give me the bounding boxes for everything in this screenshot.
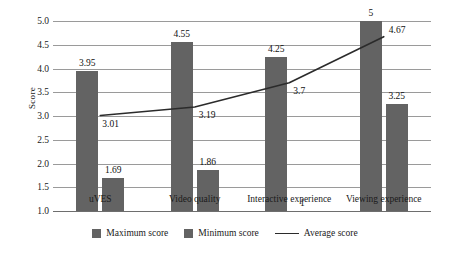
legend-label-minimum-score: Minimum score: [198, 228, 258, 238]
x-axis-category-label: Interactive experience: [247, 194, 331, 204]
bar-value-label: 3.25: [388, 91, 405, 101]
y-axis-tick-label: 5.0: [37, 16, 49, 26]
gridline: 1.0: [53, 211, 431, 212]
legend-item-minimum-score[interactable]: Minimum score: [184, 228, 258, 238]
x-axis-category-label: Video quality: [169, 194, 220, 204]
y-axis-tick-label: 4.0: [37, 64, 49, 74]
x-axis-category-label: Viewing experience: [346, 194, 422, 204]
chart-container: Score 5.04.54.03.53.02.52.01.51.0 3.951.…: [0, 0, 450, 262]
y-axis-tick-label: 1.5: [37, 182, 49, 192]
square-swatch-icon: [184, 229, 193, 238]
y-axis-tick-label: 2.0: [37, 159, 49, 169]
average-value-label: 4.67: [389, 25, 406, 35]
average-value-label: 3.7: [293, 86, 305, 96]
chart-legend: Maximum score Minimum score Average scor…: [0, 228, 450, 238]
bar-value-label: 5: [368, 8, 373, 18]
bar-value-label: 3.95: [79, 58, 96, 68]
average-value-label: 3.01: [102, 119, 119, 129]
bar-value-label: 1.86: [199, 157, 216, 167]
average-value-label: 3.19: [199, 110, 216, 120]
legend-item-maximum-score[interactable]: Maximum score: [92, 228, 168, 238]
bar-value-label: 1.69: [105, 165, 122, 175]
y-axis-tick-label: 4.5: [37, 40, 49, 50]
square-swatch-icon: [92, 229, 101, 238]
y-axis-tick-label: 3.5: [37, 87, 49, 97]
bar-value-label: 4.55: [173, 29, 190, 39]
y-axis-title: Score: [27, 68, 37, 128]
data-labels-group: 3.951.694.551.864.25153.253.013.193.74.6…: [53, 21, 431, 211]
y-axis-tick-label: 2.5: [37, 135, 49, 145]
legend-label-maximum-score: Maximum score: [106, 228, 168, 238]
bar-value-label: 4.25: [268, 44, 285, 54]
line-swatch-icon: [275, 233, 299, 234]
legend-label-average-score: Average score: [304, 228, 358, 238]
y-axis-tick-label: 1.0: [37, 206, 49, 216]
y-axis-tick-label: 3.0: [37, 111, 49, 121]
x-axis-category-label: uVES: [89, 194, 112, 204]
legend-item-average-score[interactable]: Average score: [275, 228, 358, 238]
plot-area: 5.04.54.03.53.02.52.01.51.0 3.951.694.55…: [53, 21, 431, 211]
